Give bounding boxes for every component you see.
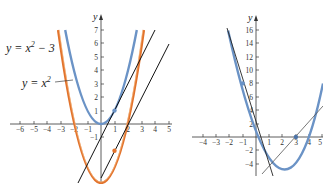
svg-text:8: 8: [249, 79, 253, 88]
svg-text:2: 2: [280, 138, 284, 147]
svg-text:−3: −3: [57, 125, 65, 134]
svg-text:−4: −4: [199, 138, 207, 147]
svg-text:5: 5: [167, 125, 171, 134]
label-eq-blue: y = x2: [21, 75, 51, 90]
left-tangent-line-2: [101, 44, 169, 178]
right-blue-parabola: [228, 30, 323, 169]
svg-text:4: 4: [153, 125, 157, 134]
right-point-2: [294, 135, 298, 139]
svg-text:2: 2: [94, 93, 98, 102]
svg-text:3: 3: [140, 125, 144, 134]
svg-text:1: 1: [94, 107, 98, 116]
svg-text:7: 7: [94, 26, 98, 35]
svg-text:−4: −4: [245, 160, 253, 169]
svg-text:−3: −3: [212, 138, 220, 147]
chart-canvas: y −6 −5 −4 −3 −2 −1 1 2 3 4 5: [0, 0, 323, 184]
svg-text:3: 3: [94, 80, 98, 89]
svg-text:−2: −2: [245, 146, 253, 155]
right-x-ticks: [203, 134, 322, 137]
right-y-tick-labels: 16 14 12 10 8 6 4 2 −2 −4: [245, 26, 253, 169]
right-point-1: [241, 81, 245, 85]
right-y-ticks: [256, 30, 259, 164]
left-point-orange: [112, 149, 116, 153]
svg-text:1: 1: [113, 125, 117, 134]
right-chart: y −4 −3 −2 −1 1 2 3 4 5 16: [192, 12, 323, 176]
right-y-axis-label: y: [247, 12, 253, 23]
svg-text:6: 6: [94, 39, 98, 48]
svg-text:5: 5: [94, 53, 98, 62]
left-y-axis-label: y: [92, 11, 98, 22]
svg-text:−1: −1: [90, 133, 98, 142]
svg-text:5: 5: [318, 138, 322, 147]
svg-text:16: 16: [246, 26, 254, 35]
left-chart: y −6 −5 −4 −3 −2 −1 1 2 3 4 5: [5, 11, 172, 184]
svg-text:3: 3: [294, 138, 298, 147]
label-eq-orange: y = x2 − 3: [5, 40, 55, 55]
left-y-arrow-icon: [99, 14, 103, 20]
svg-text:−6: −6: [16, 125, 24, 134]
svg-text:−2: −2: [225, 138, 233, 147]
svg-text:−4: −4: [43, 125, 51, 134]
right-y-arrow-icon: [254, 15, 258, 21]
left-tangent-line-1: [78, 30, 155, 183]
svg-text:10: 10: [246, 66, 254, 75]
svg-text:1: 1: [267, 138, 271, 147]
left-point-blue: [112, 108, 116, 112]
right-tangent-line-2: [262, 106, 323, 174]
svg-text:14: 14: [246, 39, 254, 48]
svg-text:4: 4: [94, 66, 98, 75]
label-eq-blue-leader: [55, 80, 73, 82]
svg-text:−5: −5: [30, 125, 38, 134]
left-y-ticks: [101, 30, 104, 137]
svg-text:12: 12: [246, 53, 254, 62]
